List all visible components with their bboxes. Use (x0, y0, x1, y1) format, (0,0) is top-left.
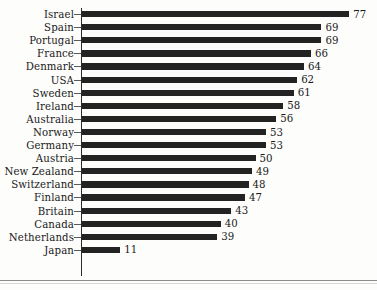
bar-row: Israel77 (0, 8, 377, 21)
bar-value-label: 39 (221, 230, 234, 243)
bar (82, 24, 321, 30)
bar-value-label: 53 (270, 139, 283, 152)
bar-value-label: 11 (124, 243, 137, 256)
bar-value-label: 47 (249, 191, 262, 204)
bar-row: USA62 (0, 74, 377, 87)
bar-row: Finland47 (0, 191, 377, 204)
category-label: Portugal (0, 34, 74, 47)
category-label: Finland (0, 191, 74, 204)
plot-area: Israel77Spain69Portugal69France66Denmark… (0, 4, 377, 280)
bar-value-label: 40 (225, 217, 238, 230)
category-label: Netherlands (0, 231, 74, 244)
category-label: France (0, 47, 74, 60)
axis-tick (74, 197, 81, 198)
bar (82, 103, 283, 109)
bar (82, 63, 304, 69)
bar-value-label: 49 (256, 165, 269, 178)
bar-row: Japan11 (0, 244, 377, 257)
bar-value-label: 69 (325, 34, 338, 47)
axis-tick (74, 171, 81, 172)
bar (82, 234, 217, 240)
axis-tick (74, 93, 81, 94)
category-label: Austria (0, 152, 74, 165)
bar (82, 208, 231, 214)
axis-tick (74, 119, 81, 120)
category-label: Britain (0, 205, 74, 218)
bar-row: France66 (0, 47, 377, 60)
bar-row: Norway53 (0, 126, 377, 139)
bar-value-label: 56 (280, 112, 293, 125)
bar (82, 247, 120, 253)
bar (82, 50, 311, 56)
bar (82, 221, 221, 227)
axis-tick (74, 132, 81, 133)
bar-row: Ireland58 (0, 100, 377, 113)
category-label: Canada (0, 218, 74, 231)
bar (82, 129, 266, 135)
bar-row: Portugal69 (0, 34, 377, 47)
bar-value-label: 62 (301, 73, 314, 86)
bar (82, 77, 297, 83)
category-label: Norway (0, 126, 74, 139)
axis-tick (74, 145, 81, 146)
axis-tick (74, 27, 81, 28)
bar (82, 181, 249, 187)
category-label: Ireland (0, 100, 74, 113)
category-label: Japan (0, 244, 74, 257)
bar-value-label: 48 (253, 178, 266, 191)
bar-value-label: 69 (325, 21, 338, 34)
axis-tick (74, 53, 81, 54)
axis-tick (74, 106, 81, 107)
axis-tick (74, 80, 81, 81)
bar-value-label: 53 (270, 126, 283, 139)
axis-tick (74, 66, 81, 67)
category-label: Switzerland (0, 178, 74, 191)
bar-row: Canada40 (0, 218, 377, 231)
bar-row: Austria50 (0, 152, 377, 165)
bar (82, 168, 252, 174)
bar (82, 11, 349, 17)
bar (82, 116, 276, 122)
bar-value-label: 43 (235, 204, 248, 217)
bar-row: Sweden61 (0, 87, 377, 100)
bar-value-label: 66 (315, 47, 328, 60)
category-label: Denmark (0, 60, 74, 73)
bar-value-label: 64 (308, 60, 321, 73)
category-label: Israel (0, 8, 74, 21)
bar-chart: Israel77Spain69Portugal69France66Denmark… (0, 0, 377, 290)
chart-bottom-rule (0, 280, 377, 281)
bar (82, 194, 245, 200)
category-label: Australia (0, 113, 74, 126)
axis-tick (74, 224, 81, 225)
axis-tick (74, 237, 81, 238)
category-label: New Zealand (0, 165, 74, 178)
bar-row: Switzerland48 (0, 178, 377, 191)
bar-value-label: 61 (298, 86, 311, 99)
category-label: USA (0, 74, 74, 87)
bar (82, 142, 266, 148)
chart-bottom-rule-shadow (0, 283, 377, 284)
axis-tick (74, 14, 81, 15)
bar-value-label: 77 (353, 8, 366, 21)
bar-value-label: 50 (260, 152, 273, 165)
bar (82, 37, 321, 43)
bar-row: Britain43 (0, 205, 377, 218)
axis-tick (74, 184, 81, 185)
bar-row: Spain69 (0, 21, 377, 34)
category-label: Sweden (0, 87, 74, 100)
category-label: Spain (0, 21, 74, 34)
bar-value-label: 58 (287, 99, 300, 112)
axis-tick (74, 158, 81, 159)
bar-row: New Zealand49 (0, 165, 377, 178)
bar-row: Germany53 (0, 139, 377, 152)
bar-row: Netherlands39 (0, 231, 377, 244)
bar (82, 155, 256, 161)
bar (82, 90, 294, 96)
axis-tick (74, 40, 81, 41)
bar-row: Australia56 (0, 113, 377, 126)
bar-row: Denmark64 (0, 60, 377, 73)
category-label: Germany (0, 139, 74, 152)
axis-tick (74, 250, 81, 251)
axis-tick (74, 211, 81, 212)
